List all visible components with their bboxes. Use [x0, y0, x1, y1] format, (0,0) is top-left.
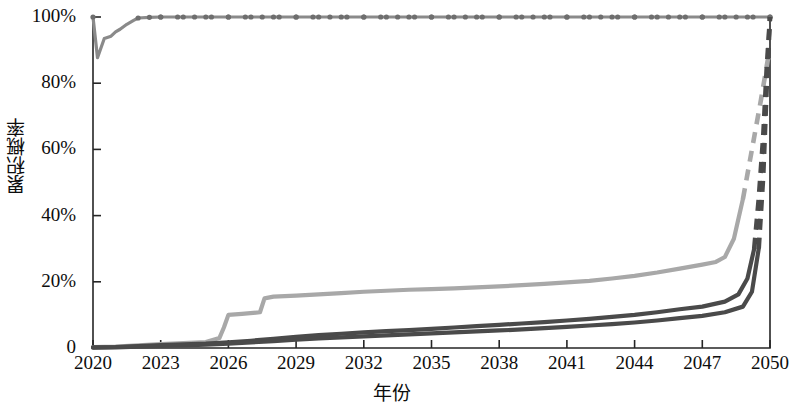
y-tick-label: 20%: [0, 270, 84, 292]
x-tick-label: 2032: [334, 352, 394, 374]
x-tick-label: 2038: [469, 352, 529, 374]
y-tick-label: 100%: [0, 5, 84, 27]
series-series-1-top: [90, 14, 772, 57]
x-tick-label: 2041: [537, 352, 597, 374]
x-tick-label: 2026: [198, 352, 258, 374]
axis-lines: [93, 16, 770, 348]
x-tick-label: 2020: [63, 352, 123, 374]
series-series-2-light-gray: [93, 53, 770, 347]
y-tick-label: 60%: [0, 137, 84, 159]
y-tick-label: 80%: [0, 71, 84, 93]
y-tick-label: 40%: [0, 204, 84, 226]
x-tick-label: 2023: [131, 352, 191, 374]
x-tick-label: 2029: [266, 352, 326, 374]
series-layer: [90, 14, 772, 347]
x-tick-label: 2047: [672, 352, 732, 374]
tick-marks: [93, 17, 770, 348]
x-tick-label: 2035: [402, 352, 462, 374]
x-tick-label: 2050: [740, 352, 793, 374]
x-tick-label: 2044: [605, 352, 665, 374]
series-series-4-dark-lower: [93, 17, 770, 348]
series-series-3-dark-upper: [93, 17, 770, 347]
